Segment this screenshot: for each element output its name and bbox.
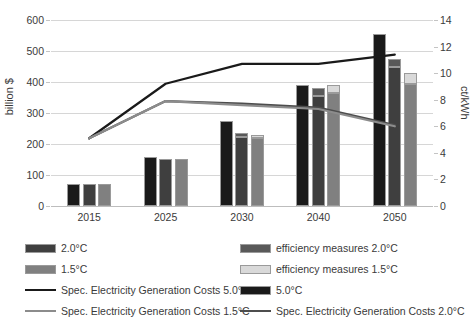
legend-label: 2.0°C: [61, 243, 87, 254]
legend-item[interactable]: 2.0°C: [25, 238, 250, 259]
x-tick-label: 2050: [365, 211, 425, 223]
legend-label: efficiency measures 2.0°C: [276, 243, 398, 254]
y-tick-label-right: 6: [440, 121, 446, 132]
y-tick-label-right: 14: [440, 15, 452, 26]
y-tick-label-right: 0: [440, 201, 446, 212]
legend-swatch-icon: [25, 244, 56, 253]
legend-item[interactable]: efficiency measures 1.5°C: [240, 259, 465, 280]
plot-area: 0100200300400500600 02468101214 20152025…: [51, 20, 433, 206]
legend-label: Spec. Electricity Generation Costs 1.5°C: [61, 306, 250, 317]
legend-label: efficiency measures 1.5°C: [276, 264, 398, 275]
y-tick-label-right: 4: [440, 148, 446, 159]
y-tick-mark-right: [434, 73, 438, 74]
y-tick-mark-left: [46, 51, 50, 52]
legend-item[interactable]: efficiency measures 2.0°C: [240, 238, 465, 259]
y-tick-label-left: 400: [26, 77, 44, 88]
legend-swatch-icon: [25, 265, 56, 274]
y-axis-title-left: billion $: [3, 78, 15, 115]
y-axis-title-right: ct/kWh: [459, 86, 471, 120]
legend-line-icon: [240, 307, 271, 316]
legend-label: 5.0°C: [276, 285, 302, 296]
legend-column-left: 2.0°C1.5°CSpec. Electricity Generation C…: [25, 238, 250, 322]
y-tick-label-right: 12: [440, 42, 452, 53]
legend-item[interactable]: 5.0°C: [240, 280, 465, 301]
x-tick-label: 2030: [212, 211, 272, 223]
legend-swatch-icon: [240, 265, 271, 274]
legend-item[interactable]: Spec. Electricity Generation Costs 1.5°C: [25, 301, 250, 322]
y-tick-mark-right: [434, 100, 438, 101]
y-tick-label-left: 600: [26, 15, 44, 26]
y-tick-label-left: 300: [26, 108, 44, 119]
legend-swatch-icon: [240, 244, 271, 253]
x-tick-label: 2015: [59, 211, 119, 223]
legend-item[interactable]: Spec. Electricity Generation Costs 2.0°C: [240, 301, 465, 322]
y-tick-mark-left: [46, 144, 50, 145]
legend-item[interactable]: 1.5°C: [25, 259, 250, 280]
legend-line-icon: [25, 307, 56, 316]
legend-item[interactable]: Spec. Electricity Generation Costs 5.0°C: [25, 280, 250, 301]
y-tick-mark-right: [434, 20, 438, 21]
legend-swatch-icon: [240, 286, 271, 295]
y-tick-label-right: 10: [440, 68, 452, 79]
legend-label: 1.5°C: [61, 264, 87, 275]
chart-figure: billion $ ct/kWh 0100200300400500600 024…: [0, 0, 473, 322]
y-tick-label-left: 200: [26, 139, 44, 150]
x-tick-label: 2040: [288, 211, 348, 223]
y-tick-mark-right: [434, 47, 438, 48]
legend-label: Spec. Electricity Generation Costs 5.0°C: [61, 285, 250, 296]
y-tick-label-left: 0: [38, 201, 44, 212]
x-tick-label: 2025: [136, 211, 196, 223]
chart-legend: 2.0°C1.5°CSpec. Electricity Generation C…: [0, 238, 473, 322]
y-tick-mark-left: [46, 113, 50, 114]
y-tick-label-left: 100: [26, 170, 44, 181]
legend-column-right: efficiency measures 2.0°Cefficiency meas…: [240, 238, 465, 322]
y-tick-label-right: 8: [440, 95, 446, 106]
y-tick-mark-left: [46, 175, 50, 176]
y-tick-mark-right: [434, 153, 438, 154]
y-tick-mark-left: [46, 82, 50, 83]
line-series[interactable]: [89, 55, 395, 139]
y-tick-mark-left: [46, 20, 50, 21]
y-tick-label-left: 500: [26, 46, 44, 57]
legend-line-icon: [25, 286, 56, 295]
y-tick-mark-right: [434, 206, 438, 207]
y-tick-mark-right: [434, 179, 438, 180]
line-series-layer: [51, 20, 433, 206]
y-tick-label-right: 2: [440, 174, 446, 185]
legend-label: Spec. Electricity Generation Costs 2.0°C: [276, 306, 465, 317]
y-tick-mark-left: [46, 206, 50, 207]
y-tick-mark-right: [434, 126, 438, 127]
gridline: [51, 206, 433, 207]
